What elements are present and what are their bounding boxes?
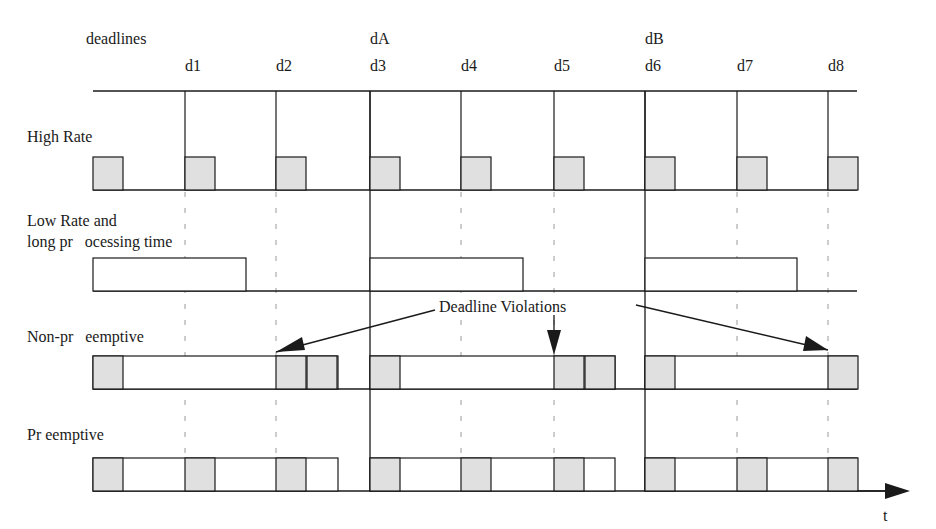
deadline-label-d5: d5	[554, 57, 570, 75]
non-preemptive-high-rate-task	[276, 356, 306, 389]
low-rate-task	[370, 258, 523, 291]
arrowhead-d8	[803, 336, 828, 351]
high-rate-label: High Rate	[27, 128, 92, 146]
high-rate-task	[737, 157, 767, 190]
preemptive-high-rate-task	[645, 458, 675, 491]
high-rate-task	[554, 157, 584, 190]
preemptive-high-rate-task	[737, 458, 767, 491]
high-rate-task	[185, 157, 215, 190]
time-axis-arrowhead	[885, 483, 910, 499]
deadline-violations-label: Deadline Violations	[439, 298, 566, 316]
non-preemptive-high-rate-task	[370, 356, 400, 389]
non-preemptive-label: Non-pr eemptive	[27, 328, 144, 346]
preemptive-high-rate-task	[185, 458, 215, 491]
deadline-label-d4: d4	[461, 57, 477, 75]
deadline-label-d2: d2	[276, 57, 292, 75]
low-rate-task	[645, 258, 797, 291]
preemptive-high-rate-task	[554, 458, 584, 491]
preemptive-high-rate-task	[370, 458, 400, 491]
non-preemptive-high-rate-task	[645, 356, 675, 389]
high-rate-task	[461, 157, 491, 190]
high-rate-task	[828, 157, 858, 190]
violation-arrow-d8	[636, 305, 828, 350]
preemptive-high-rate-task	[828, 458, 858, 491]
preemptive-high-rate-task	[93, 458, 123, 491]
scheduling-timing-diagram	[0, 0, 936, 529]
task-rows	[93, 157, 890, 491]
deadline-label-d6: d6	[645, 57, 661, 75]
deadline-label-d7: d7	[737, 57, 753, 75]
high-rate-task	[276, 157, 306, 190]
time-axis-label: t	[883, 507, 887, 525]
non-preemptive-low-rate-task	[645, 356, 857, 389]
preemptive-high-rate-task	[276, 458, 306, 491]
deadline-label-d1: d1	[185, 57, 201, 75]
low-rate-label-line1: Low Rate and	[27, 212, 117, 230]
deadline-label-d8: d8	[828, 57, 844, 75]
non-preemptive-high-rate-task	[554, 356, 584, 389]
preemptive-high-rate-task	[461, 458, 491, 491]
arrowhead-d5	[547, 330, 561, 355]
preemptive-label: Pr eemptive	[27, 426, 104, 444]
non-preemptive-high-rate-task	[307, 356, 337, 389]
deadlines-label: deadlines	[86, 30, 146, 48]
deadline-dashed-guides	[185, 192, 828, 456]
non-preemptive-high-rate-task	[93, 356, 123, 389]
low-rate-label-line2: long pr ocessing time	[27, 233, 172, 251]
non-preemptive-high-rate-task	[585, 356, 615, 389]
high-rate-task	[645, 157, 675, 190]
high-rate-task	[93, 157, 123, 190]
arrowhead-d2	[276, 337, 305, 352]
deadline-label-dA: dA	[370, 30, 390, 48]
non-preemptive-high-rate-task	[828, 356, 858, 389]
low-rate-task	[93, 258, 246, 291]
deadline-label-d3: d3	[370, 57, 386, 75]
high-rate-task	[370, 157, 400, 190]
time-axis	[857, 483, 910, 499]
deadline-label-dB: dB	[645, 30, 664, 48]
